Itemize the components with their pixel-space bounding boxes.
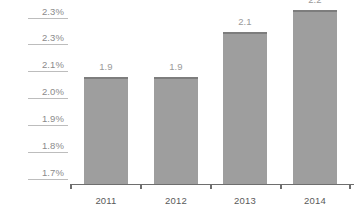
x-axis-tick-label: 2012 xyxy=(154,195,198,206)
y-axis-tick-rule xyxy=(28,125,68,126)
x-axis-tick xyxy=(349,185,351,189)
plot-area: 1.9 1.9 2.1 2.2 xyxy=(70,0,355,211)
bar-chart: 2.3% 2.3% 2.1% 2.0% 1.9% 1.8% 1.7% xyxy=(0,0,355,211)
bar-value-label: 1.9 xyxy=(154,61,198,72)
y-axis-tick-label: 2.1% xyxy=(42,59,64,70)
y-axis-tick-rule xyxy=(28,152,68,153)
y-axis-tick-rule xyxy=(28,44,68,45)
y-axis-tick-label: 2.3% xyxy=(42,6,64,17)
y-axis-tick-label: 2.0% xyxy=(42,86,64,97)
y-axis-tick-rule xyxy=(28,98,68,99)
x-axis-line xyxy=(70,184,354,186)
y-axis-tick-label: 1.8% xyxy=(42,140,64,151)
bar-slot: 2.2 xyxy=(293,24,337,184)
x-axis-tick xyxy=(280,185,282,189)
bar-value-label: 2.1 xyxy=(223,16,267,27)
bar[interactable] xyxy=(154,77,198,184)
x-axis-tick xyxy=(210,185,212,189)
bar-group: 1.9 1.9 2.1 2.2 xyxy=(70,24,355,184)
y-axis-tick-rule xyxy=(28,179,68,180)
y-axis-tick-label: 1.7% xyxy=(42,167,64,178)
x-axis-tick-label: 2014 xyxy=(293,195,337,206)
x-axis-tick xyxy=(70,185,72,189)
y-axis-tick-label: 1.9% xyxy=(42,113,64,124)
bar-slot: 2.1 xyxy=(223,24,267,184)
bar-slot: 1.9 xyxy=(84,24,128,184)
x-axis-tick xyxy=(140,185,142,189)
bar[interactable] xyxy=(84,77,128,184)
bar-slot: 1.9 xyxy=(154,24,198,184)
bar[interactable] xyxy=(293,10,337,184)
y-axis: 2.3% 2.3% 2.1% 2.0% 1.9% 1.8% 1.7% xyxy=(0,0,70,211)
y-axis-tick-rule xyxy=(28,71,68,72)
y-axis-tick-rule xyxy=(28,18,68,19)
bar[interactable] xyxy=(223,32,267,184)
y-axis-tick-label: 2.3% xyxy=(42,32,64,43)
x-axis-tick-label: 2013 xyxy=(223,195,267,206)
x-axis-tick-label: 2011 xyxy=(84,195,128,206)
bar-value-label: 2.2 xyxy=(293,0,337,5)
bar-value-label: 1.9 xyxy=(84,61,128,72)
